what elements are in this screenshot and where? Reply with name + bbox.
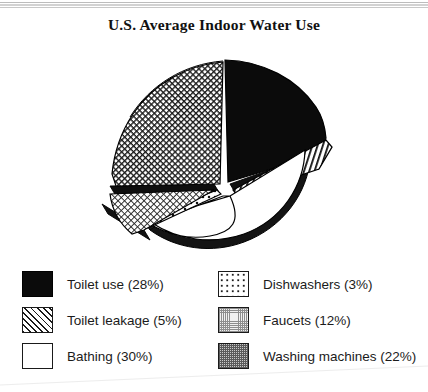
scan-artifact-line bbox=[0, 2, 428, 3]
scan-artifact-line bbox=[0, 7, 428, 8]
scan-artifact-line bbox=[0, 4, 428, 6]
pie-slice-faucets-upper[interactable] bbox=[112, 62, 223, 186]
legend-swatch-toilet-leakage bbox=[22, 307, 53, 333]
legend-label-washing-machines: Washing machines (22%) bbox=[263, 349, 416, 364]
legend-item-washing-machines[interactable]: Washing machines (22%) bbox=[218, 338, 414, 374]
legend-column-left: Toilet use (28%) Toilet leakage (5%) Bat… bbox=[22, 266, 218, 374]
legend-item-toilet-leakage[interactable]: Toilet leakage (5%) bbox=[22, 302, 218, 338]
legend-swatch-dishwashers bbox=[218, 271, 249, 297]
legend-item-bathing[interactable]: Bathing (30%) bbox=[22, 338, 218, 374]
chart-legend: Toilet use (28%) Toilet leakage (5%) Bat… bbox=[22, 266, 414, 378]
legend-label-dishwashers: Dishwashers (3%) bbox=[263, 277, 373, 292]
legend-item-faucets[interactable]: Faucets (12%) bbox=[218, 302, 414, 338]
legend-swatch-faucets bbox=[218, 307, 249, 333]
pie-chart-svg bbox=[92, 44, 338, 266]
legend-item-dishwashers[interactable]: Dishwashers (3%) bbox=[218, 266, 414, 302]
legend-swatch-bathing bbox=[22, 343, 53, 369]
legend-label-faucets: Faucets (12%) bbox=[263, 313, 351, 328]
legend-label-toilet-use: Toilet use (28%) bbox=[67, 277, 164, 292]
legend-label-toilet-leakage: Toilet leakage (5%) bbox=[67, 313, 182, 328]
legend-swatch-washing-machines bbox=[218, 343, 249, 369]
legend-swatch-toilet-use bbox=[22, 271, 53, 297]
page-title: U.S. Average Indoor Water Use bbox=[0, 16, 428, 34]
legend-item-toilet-use[interactable]: Toilet use (28%) bbox=[22, 266, 218, 302]
legend-label-bathing: Bathing (30%) bbox=[67, 349, 153, 364]
legend-column-right: Dishwashers (3%) Faucets (12%) Washing m… bbox=[218, 266, 414, 374]
chart-page: U.S. Average Indoor Water Use bbox=[0, 0, 428, 392]
pie-chart bbox=[92, 44, 338, 266]
